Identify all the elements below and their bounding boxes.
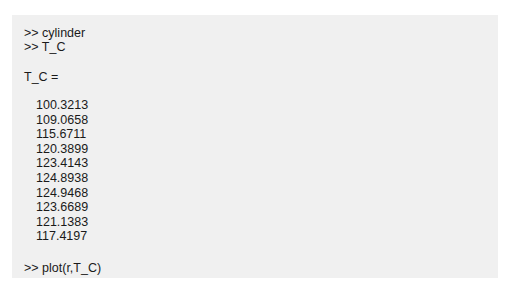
output-value: 100.3213	[36, 98, 88, 113]
command-line-cylinder: >> cylinder	[24, 26, 85, 41]
output-value: 120.3899	[36, 142, 88, 157]
command-line-plot: >> plot(r,T_C)	[24, 261, 101, 276]
output-value: 115.6711	[36, 127, 86, 142]
output-label: T_C =	[24, 70, 58, 85]
output-value: 109.0658	[36, 113, 88, 128]
matlab-command-window[interactable]: >> cylinder >> T_C T_C = 100.3213 109.06…	[12, 15, 498, 278]
output-value: 124.8938	[36, 171, 88, 186]
command-line-tc: >> T_C	[24, 40, 65, 55]
output-value: 124.9468	[36, 186, 88, 201]
output-value: 123.6689	[36, 200, 88, 215]
output-value: 123.4143	[36, 156, 88, 171]
output-value: 117.4197	[36, 229, 87, 244]
output-value: 121.1383	[36, 215, 88, 230]
